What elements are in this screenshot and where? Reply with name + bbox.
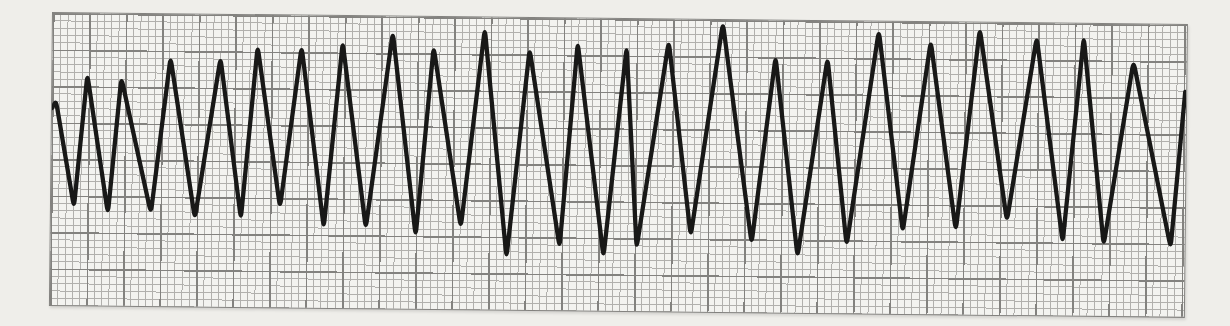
ecg-trace [50,13,1187,317]
ecg-trace-path [51,19,1186,261]
ecg-strip-paper [49,12,1188,318]
scanned-page-background [0,0,1230,326]
